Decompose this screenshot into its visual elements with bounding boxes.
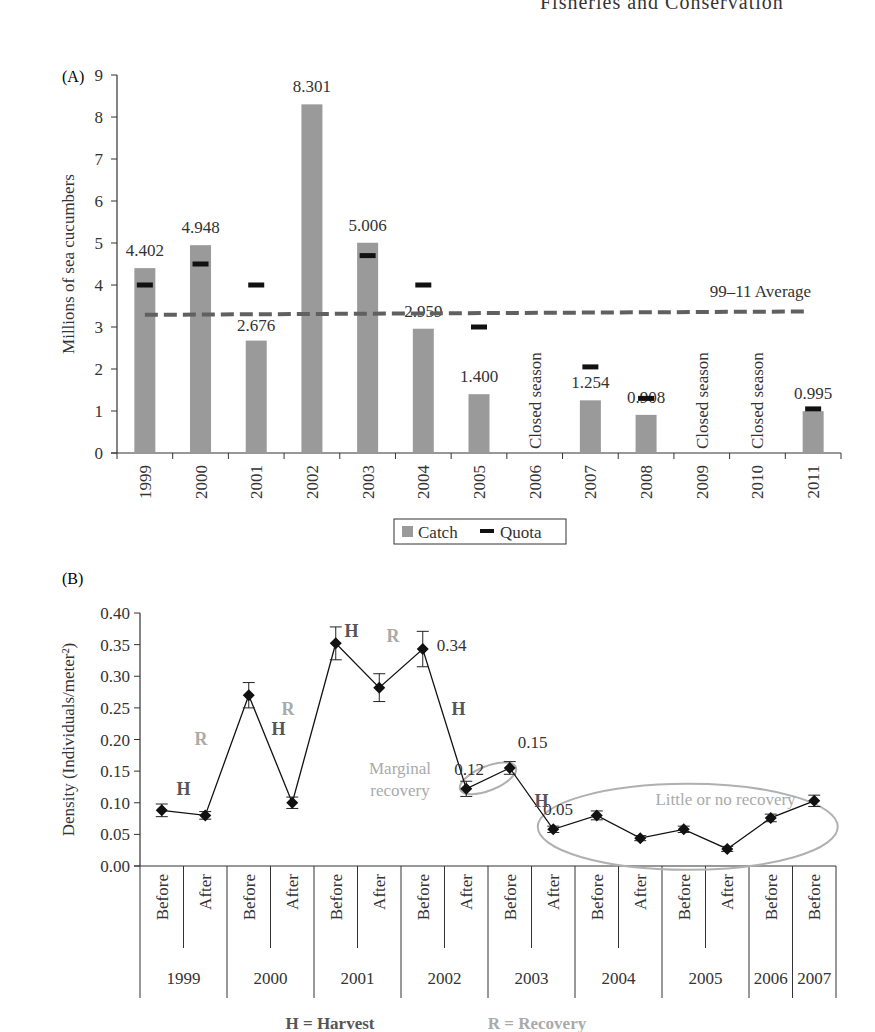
annotation-marginal-line1: Marginal: [369, 759, 431, 778]
y-tick-label: 0.00: [100, 857, 130, 876]
legend-recovery: R = Recovery: [488, 1014, 587, 1032]
year-group-label: 2006: [754, 969, 788, 988]
data-point: [330, 627, 342, 660]
y-tick-label: 9: [95, 66, 104, 85]
bar-value-label: 8.301: [293, 77, 331, 96]
diamond-marker: [286, 797, 298, 809]
x-tick-label: 2002: [303, 465, 322, 499]
x-tick-label: 2006: [526, 465, 545, 499]
y-tick-label: 0.25: [100, 699, 130, 718]
recovery-segment-label: R: [195, 729, 209, 749]
x-tick-label: 2010: [748, 465, 767, 499]
x-tick-label: 2008: [637, 465, 656, 499]
year-group-label: 2007: [797, 969, 832, 988]
period-label: After: [283, 874, 302, 910]
y-tick-label: 3: [95, 318, 104, 337]
data-point: [591, 809, 603, 821]
average-line-label: 99–11 Average: [710, 282, 812, 301]
bar-catch-2011: [803, 411, 824, 453]
y-tick-label: 0.35: [100, 636, 130, 655]
quota-marker-2003: [360, 253, 376, 258]
recovery-segment-label: R: [387, 626, 401, 646]
data-point: [156, 804, 168, 817]
period-label: Before: [501, 874, 520, 920]
diamond-marker: [156, 804, 168, 816]
x-tick-label: 2000: [192, 465, 211, 499]
x-tick-label: 2001: [247, 465, 266, 499]
year-group-label: 1999: [167, 969, 201, 988]
bar-catch-2005: [469, 394, 490, 453]
x-tick-label: 2007: [581, 465, 600, 500]
bar-catch-2007: [580, 400, 601, 453]
value-label: 0.34: [437, 636, 467, 655]
quota-marker-2004: [415, 283, 431, 288]
bar-catch-2002: [301, 104, 322, 453]
y-tick-label: 0: [95, 444, 104, 463]
year-group-label: 2004: [602, 969, 637, 988]
harvest-segment-label: H: [176, 779, 190, 799]
data-point: [721, 843, 733, 855]
panel-label-a: (A): [62, 68, 84, 86]
bar-catch-2000: [190, 245, 211, 453]
period-label: After: [457, 874, 476, 910]
y-tick-label: 0.30: [100, 667, 130, 686]
data-point: [286, 797, 298, 809]
bar-value-label: 1.400: [460, 367, 498, 386]
x-tick-label: 2003: [359, 465, 378, 499]
period-label: Before: [414, 874, 433, 920]
period-label: Before: [240, 874, 259, 920]
legend-catch-label: Catch: [418, 523, 458, 542]
bar-value-label: 4.402: [126, 241, 164, 260]
year-group-label: 2002: [428, 969, 462, 988]
legend-catch-swatch: [402, 526, 413, 537]
quota-marker-2011: [805, 406, 821, 411]
x-tick-label: 2004: [414, 465, 433, 500]
harvest-segment-label: H: [344, 621, 358, 641]
period-label: Before: [675, 874, 694, 920]
legend-a: CatchQuota: [394, 519, 566, 544]
period-label: After: [631, 874, 650, 910]
x-tick-label: 2005: [470, 465, 489, 499]
value-label: 0.12: [454, 760, 484, 779]
y-tick-label: 1: [95, 402, 104, 421]
legend-quota-label: Quota: [500, 523, 542, 542]
diamond-marker: [721, 843, 733, 855]
y-tick-label: 0.20: [100, 731, 130, 750]
bar-value-label: 0.995: [794, 384, 832, 403]
bar-value-label: 4.948: [181, 218, 219, 237]
diamond-marker: [634, 832, 646, 844]
y-tick-label: 7: [95, 150, 104, 169]
bar-catch-2008: [636, 415, 657, 453]
y-tick-label: 8: [95, 108, 104, 127]
closed-season-label: Closed season: [748, 352, 767, 449]
year-group-label: 2001: [341, 969, 375, 988]
y-tick-label: 2: [95, 360, 104, 379]
annotation-little-recovery: Little or no recovery: [655, 790, 796, 809]
annotation-marginal-line2: recovery: [370, 781, 430, 800]
data-point: [678, 823, 690, 835]
quota-marker-2008: [638, 396, 654, 401]
closed-season-label: Closed season: [693, 352, 712, 449]
period-label: Before: [805, 874, 824, 920]
y-tick-label: 4: [95, 276, 104, 295]
data-point: [373, 674, 385, 702]
bar-catch-2004: [413, 329, 434, 453]
period-label: Before: [588, 874, 607, 920]
harvest-segment-label: H: [451, 699, 465, 719]
y-tick-label: 0.10: [100, 794, 130, 813]
y-tick-label: 6: [95, 192, 104, 211]
quota-marker-2000: [193, 262, 209, 267]
y-tick-label: 5: [95, 234, 104, 253]
average-line: [145, 311, 809, 314]
legend-quota-swatch: [480, 529, 494, 533]
data-point: [634, 832, 646, 844]
period-label: After: [370, 874, 389, 910]
bar-value-label: 5.006: [348, 216, 386, 235]
data-point: [547, 823, 559, 835]
data-point: [765, 812, 777, 824]
bar-catch-2003: [357, 243, 378, 453]
diamond-marker: [678, 823, 690, 835]
period-label: Before: [762, 874, 781, 920]
harvest-segment-label: H: [534, 791, 548, 811]
panel-label-b: (B): [62, 570, 83, 588]
